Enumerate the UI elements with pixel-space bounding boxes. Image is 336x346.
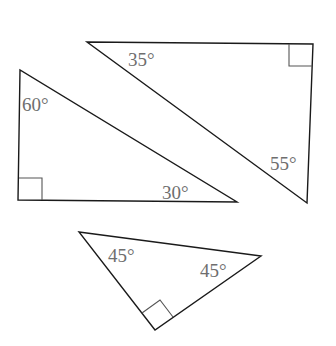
angle-label-45-left: 45°: [108, 245, 135, 266]
right-angle-marker: [142, 300, 173, 317]
triangle-angles-diagram: 35° 55° 60° 30° 45° 45°: [0, 0, 336, 346]
angle-label-30: 30°: [162, 182, 189, 203]
diagram-svg: 35° 55° 60° 30° 45° 45°: [0, 0, 336, 346]
angle-label-55: 55°: [270, 153, 297, 174]
right-angle-marker: [289, 44, 312, 66]
angle-label-60: 60°: [22, 94, 49, 115]
right-angle-marker: [19, 178, 42, 200]
triangle-outline: [79, 232, 261, 330]
triangle-outline: [18, 70, 237, 202]
angle-label-45-right: 45°: [200, 260, 227, 281]
triangle-45-45-90: 45° 45°: [79, 232, 261, 330]
angle-label-35: 35°: [128, 49, 155, 70]
triangle-60-30-90: 60° 30°: [18, 70, 237, 203]
